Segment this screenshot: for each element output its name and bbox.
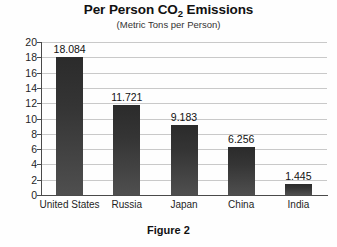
y-axis-tick-labels: 20181614121086420 [0,42,37,196]
y-axis-tick-mark [37,164,42,165]
y-axis-tick-label: 18 [3,52,37,63]
gridline [41,103,327,104]
chart-title-tail: Emissions [183,2,253,17]
bar[interactable] [285,184,312,195]
chart-title: Per Person CO2 Emissions [0,2,337,17]
y-axis-tick-label: 16 [3,68,37,79]
chart-title-main: Per Person CO [84,2,178,17]
y-axis-tick-label: 10 [3,114,37,125]
plot-area: 18.08411.7219.1836.2561.445 [41,42,327,195]
y-axis-tick-label: 14 [3,83,37,94]
bar[interactable] [228,147,255,195]
y-axis-tick-label: 2 [3,175,37,186]
gridline [41,57,327,58]
y-axis-tick-label: 4 [3,159,37,170]
y-axis-tick-mark [37,57,42,58]
y-axis-tick-mark [37,180,42,181]
bar-value-label: 9.183 [154,112,214,123]
y-axis-tick-mark [37,134,42,135]
y-axis-tick-mark [37,103,42,104]
y-axis-tick-mark [37,88,42,89]
bar[interactable] [113,105,140,195]
y-axis-tick-mark [37,149,42,150]
bar[interactable] [56,57,83,195]
bar-value-label: 6.256 [211,134,271,145]
bar-value-label: 1.445 [268,171,328,182]
y-axis-tick-label: 8 [3,129,37,140]
figure-container: Per Person CO2 Emissions (Metric Tons pe… [0,0,337,247]
y-axis-tick-label: 20 [3,37,37,48]
y-axis-tick-mark [37,119,42,120]
gridline [41,88,327,89]
bar-value-label: 18.084 [40,44,100,55]
y-axis-tick-label: 6 [3,144,37,155]
y-axis-tick-mark [37,73,42,74]
bar-value-label: 11.721 [97,92,157,103]
x-axis-line [41,195,328,196]
figure-caption: Figure 2 [0,224,337,236]
chart-title-subscript: 2 [178,8,183,19]
x-axis-category-label: India [253,199,337,210]
chart-subtitle: (Metric Tons per Person) [0,19,337,30]
bar[interactable] [171,125,198,195]
gridline [41,73,327,74]
y-axis-tick-label: 12 [3,98,37,109]
